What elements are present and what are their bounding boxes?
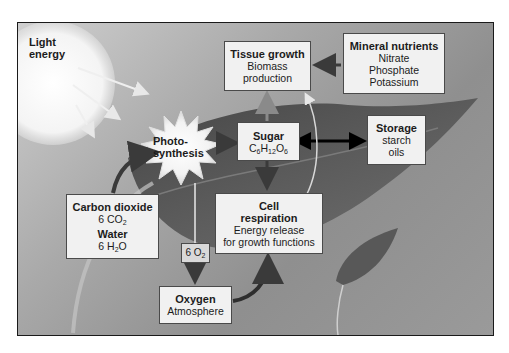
tissue-growth-box: Tissue growth Biomass production bbox=[224, 41, 311, 91]
storage-box: Storage starch oils bbox=[367, 115, 426, 165]
photosynthesis-line2: synthesis bbox=[153, 147, 204, 159]
mineral-nutrients-box: Mineral nutrients Nitrate Phosphate Pota… bbox=[343, 33, 445, 94]
light-energy-line1: Light bbox=[29, 36, 65, 48]
sugar-formula: C6H12O6 bbox=[249, 142, 288, 154]
tissue-growth-line1: Biomass bbox=[247, 60, 287, 72]
cell-respiration-box: Cell respiration Energy release for grow… bbox=[215, 193, 323, 254]
cell-respiration-line1: Energy release bbox=[234, 224, 305, 236]
small-leaf-shape bbox=[336, 228, 398, 285]
oxygen-title: Oxygen bbox=[175, 293, 215, 305]
storage-oils: oils bbox=[389, 146, 405, 158]
carbon-dioxide-title: Carbon dioxide bbox=[72, 201, 152, 213]
photosynthesis-label: Photo- synthesis bbox=[153, 135, 204, 159]
storage-title: Storage bbox=[376, 122, 417, 134]
light-energy-label: Light energy bbox=[29, 36, 65, 60]
tissue-growth-title: Tissue growth bbox=[230, 48, 304, 60]
diagram-frame: Light energy Photo- synthesis Tissue gro… bbox=[17, 22, 494, 336]
water-formula: 6 H2O bbox=[98, 240, 126, 252]
co2-formula: 6 CO2 bbox=[98, 213, 126, 225]
nutrient-phosphate: Phosphate bbox=[369, 64, 419, 76]
mineral-nutrients-title: Mineral nutrients bbox=[350, 40, 439, 52]
nutrient-potassium: Potassium bbox=[369, 76, 418, 88]
oxygen-line1: Atmosphere bbox=[167, 305, 224, 317]
sugar-title: Sugar bbox=[253, 130, 284, 142]
tissue-growth-line2: production bbox=[243, 72, 292, 84]
cell-respiration-line2: for growth functions bbox=[223, 236, 315, 248]
photosynthesis-line1: Photo- bbox=[153, 135, 204, 147]
light-energy-line2: energy bbox=[29, 48, 65, 60]
nutrient-nitrate: Nitrate bbox=[379, 52, 410, 64]
o2-output-box: 6 O2 bbox=[181, 243, 210, 263]
oxygen-box: Oxygen Atmosphere bbox=[159, 286, 232, 324]
sugar-box: Sugar C6H12O6 bbox=[237, 122, 300, 161]
storage-starch: starch bbox=[382, 134, 411, 146]
cell-respiration-title1: Cell bbox=[259, 200, 279, 212]
inputs-box: Carbon dioxide 6 CO2 Water 6 H2O bbox=[66, 194, 159, 259]
water-title: Water bbox=[97, 228, 127, 240]
cell-respiration-title2: respiration bbox=[241, 212, 298, 224]
